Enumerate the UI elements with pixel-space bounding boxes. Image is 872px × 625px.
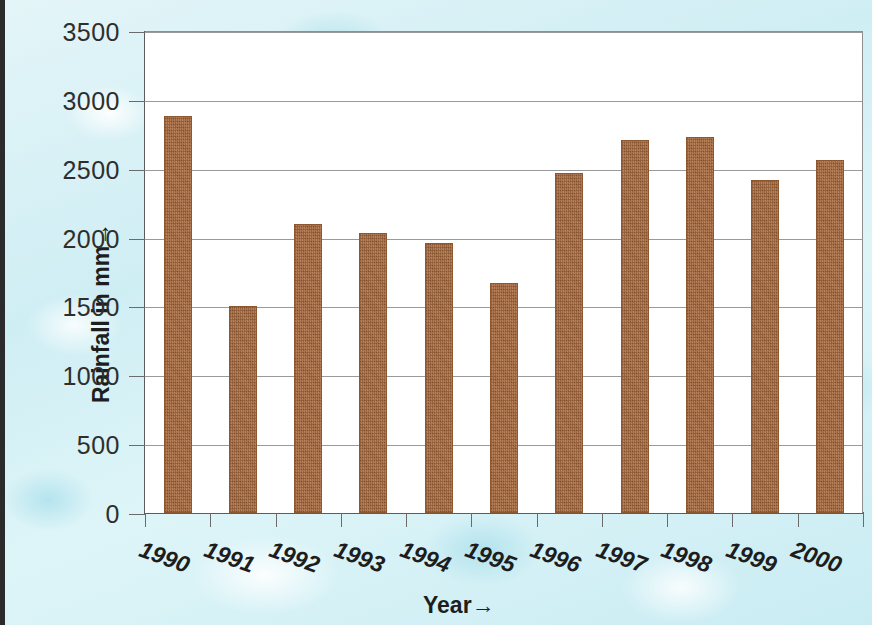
x-axis-tick (863, 513, 864, 527)
bar (294, 224, 322, 513)
x-axis-tick (341, 513, 342, 527)
x-axis-tick (732, 513, 733, 527)
x-axis-tick-label: 2000 (788, 536, 845, 579)
gridline (145, 101, 862, 102)
bar (359, 233, 387, 513)
y-axis-tick (129, 239, 145, 240)
x-axis-tick (276, 513, 277, 527)
bar (229, 306, 257, 513)
x-axis-tick-label: 1991 (201, 536, 258, 579)
bar (490, 283, 518, 513)
y-axis-tick-label: 0 (106, 500, 120, 529)
y-axis-tick (129, 445, 145, 446)
y-axis-tick-label: 3000 (62, 86, 120, 115)
bar (555, 173, 583, 513)
bar (686, 137, 714, 513)
bar (425, 243, 453, 513)
gridline (145, 170, 862, 171)
x-axis-tick-label: 1995 (462, 536, 519, 579)
y-axis-tick (129, 376, 145, 377)
x-axis-tick (537, 513, 538, 527)
y-axis-tick (129, 101, 145, 102)
y-axis-tick (129, 170, 145, 171)
x-axis-tick-label: 1993 (331, 536, 388, 579)
x-axis-tick (145, 513, 146, 527)
bar (816, 160, 844, 513)
x-axis-tick (471, 513, 472, 527)
y-axis-tick-label: 500 (77, 431, 120, 460)
gridline (145, 32, 862, 33)
x-axis-tick-label: 1994 (396, 536, 453, 579)
x-axis-tick-label: 1997 (592, 536, 649, 579)
bar (164, 116, 192, 513)
x-axis-tick (406, 513, 407, 527)
x-axis-tick (667, 513, 668, 527)
y-axis-tick-label: 2000 (62, 224, 120, 253)
x-axis-tick-label: 1992 (266, 536, 323, 579)
y-axis-tick (129, 514, 145, 515)
x-axis-tick (798, 513, 799, 527)
x-axis-tick-label: 1990 (135, 536, 192, 579)
x-axis-tick-label: 1999 (723, 536, 780, 579)
x-axis-tick (210, 513, 211, 527)
rainfall-bar-chart: Rainfall in mm→ 050010001500200025003000… (0, 0, 872, 625)
y-axis-tick-label: 1500 (62, 293, 120, 322)
y-axis-tick (129, 32, 145, 33)
y-axis-tick-label: 3500 (62, 18, 120, 47)
y-axis-tick-label: 2500 (62, 155, 120, 184)
bar (751, 180, 779, 513)
bar (621, 140, 649, 513)
x-axis-tick (602, 513, 603, 527)
y-axis-tick-label: 1000 (62, 362, 120, 391)
y-axis-tick (129, 307, 145, 308)
x-axis-tick-label: 1998 (658, 536, 715, 579)
plot-area: 0500100015002000250030003500 (145, 31, 863, 513)
x-axis-title: Year→ (423, 592, 495, 619)
x-axis-tick-label: 1996 (527, 536, 584, 579)
